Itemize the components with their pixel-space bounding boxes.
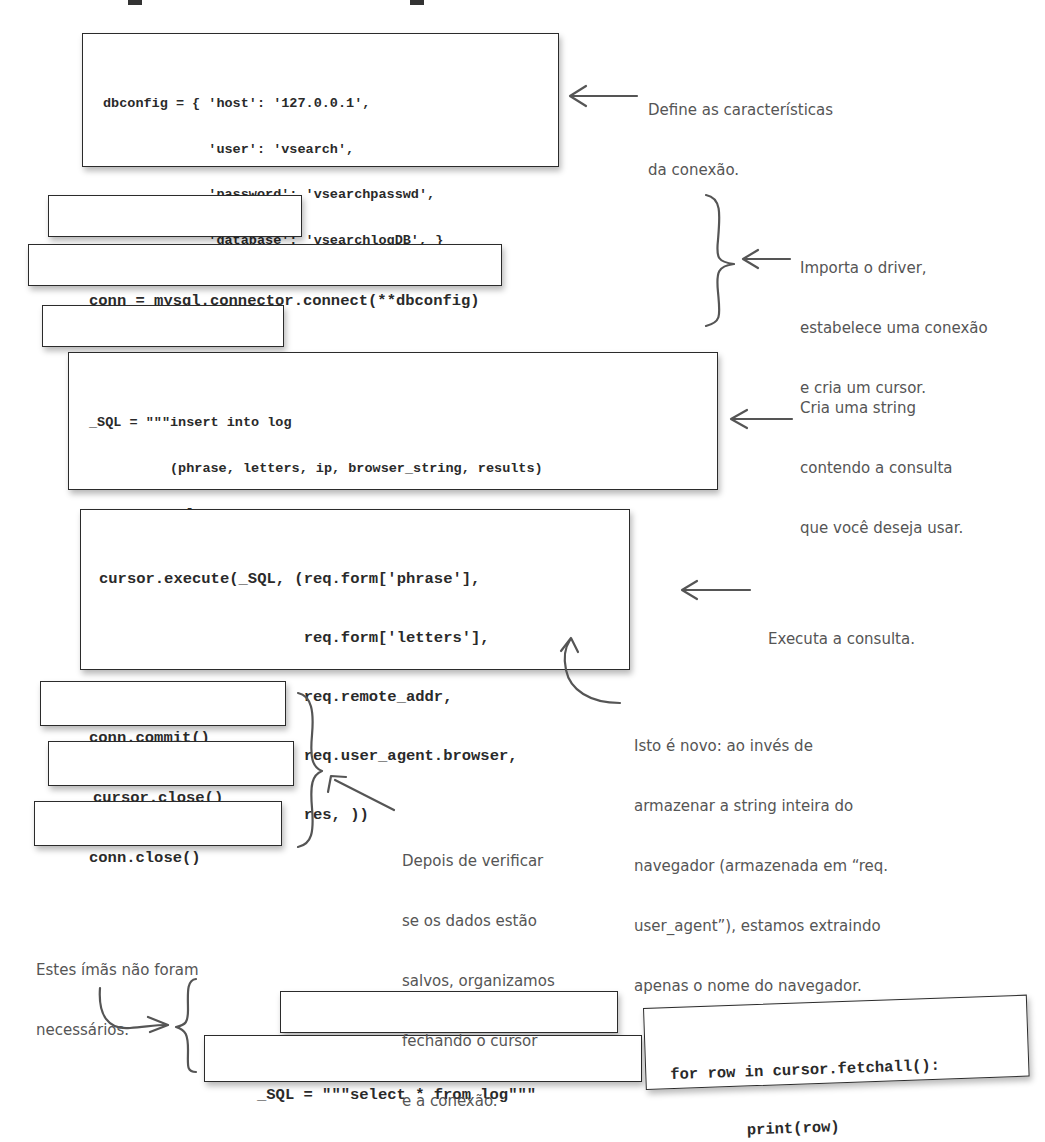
magnet-import[interactable]: import mysql.connector bbox=[48, 195, 302, 237]
magnet-commit[interactable]: conn.commit() bbox=[40, 681, 286, 726]
left-arrow-icon bbox=[682, 581, 750, 599]
annotation-sql: Cria uma string contendo a consulta que … bbox=[800, 358, 963, 558]
right-brace-icon bbox=[706, 195, 734, 326]
annotation-execute: Executa a consulta. bbox=[768, 589, 915, 669]
annotation-close: Depois de verificar se os dados estão sa… bbox=[402, 811, 555, 1131]
annotation-browser: Isto é novo: ao invés de armazenar a str… bbox=[634, 696, 888, 1016]
magnet-cursor-close[interactable]: cursor.close() bbox=[48, 741, 294, 786]
code-line: for row in cursor.fetchall(): bbox=[670, 1052, 1029, 1086]
code-line: _SQL = """insert into log bbox=[89, 415, 717, 431]
left-arrow-icon bbox=[570, 86, 637, 106]
magnet-dbconfig[interactable]: dbconfig = { 'host': '127.0.0.1', 'user'… bbox=[82, 33, 559, 167]
code-line: 'user': 'vsearch', bbox=[103, 142, 558, 158]
code-line: conn.close() bbox=[89, 850, 281, 867]
magnet-execute[interactable]: cursor.execute(_SQL, (req.form['phrase']… bbox=[80, 509, 630, 670]
magnet-connect[interactable]: conn = mysql.connector.connect(**dbconfi… bbox=[28, 244, 502, 286]
code-line: (phrase, letters, ip, browser_string, re… bbox=[89, 461, 717, 477]
code-line: dbconfig = { 'host': '127.0.0.1', bbox=[103, 96, 558, 112]
left-arrow-icon bbox=[743, 250, 790, 268]
magnet-sql-insert[interactable]: _SQL = """insert into log (phrase, lette… bbox=[68, 352, 718, 490]
cropped-heading-fragment bbox=[410, 0, 424, 5]
annotation-unused: Estes ímãs não foram necessários. bbox=[36, 920, 199, 1060]
magnet-conn-close[interactable]: conn.close() bbox=[34, 801, 282, 846]
magnet-cursor[interactable]: cursor = conn.cursor() bbox=[42, 305, 284, 347]
code-line: print(row) bbox=[672, 1110, 1031, 1142]
left-arrow-icon bbox=[731, 410, 792, 428]
annotation-dbconfig: Define as características da conexão. bbox=[648, 60, 833, 200]
code-line: cursor.execute(_SQL, (req.form['phrase']… bbox=[99, 568, 629, 591]
cropped-heading-fragment bbox=[128, 0, 142, 5]
code-line: req.form['letters'], bbox=[99, 627, 629, 650]
